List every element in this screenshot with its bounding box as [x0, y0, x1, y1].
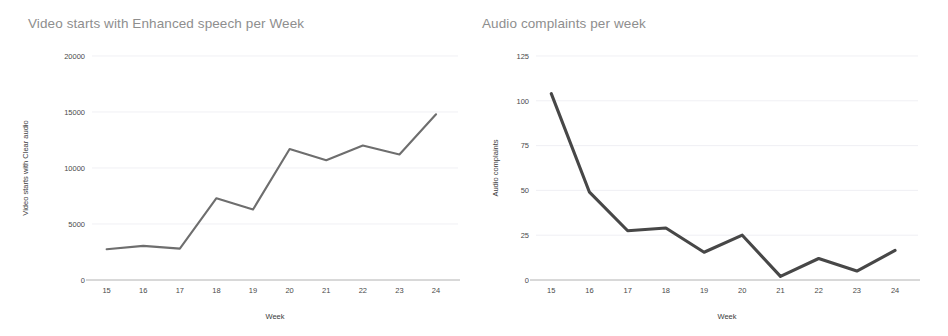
plot-area-audio-complaints: 025507510012515161718192021222324WeekAud… — [474, 40, 948, 336]
x-axis-tick-label: 21 — [322, 286, 330, 295]
y-axis-tick-label: 100 — [516, 97, 529, 106]
y-axis-tick-label: 0 — [81, 276, 85, 285]
chart-panel-audio-complaints: Audio complaints per week 02550751001251… — [474, 0, 948, 336]
y-axis-tick-label: 0 — [525, 276, 529, 285]
x-axis-tick-label: 18 — [212, 286, 220, 295]
y-axis-tick-label: 20000 — [64, 52, 85, 61]
x-axis-tick-label: 15 — [547, 286, 555, 295]
x-axis-tick-label: 20 — [285, 286, 293, 295]
charts-board: Video starts with Enhanced speech per We… — [0, 0, 948, 336]
y-axis-tick-label: 15000 — [64, 108, 85, 117]
x-axis-tick-label: 18 — [662, 286, 670, 295]
plot-area-video-starts: 0500010000150002000015161718192021222324… — [0, 40, 474, 336]
chart-panel-video-starts: Video starts with Enhanced speech per We… — [0, 0, 474, 336]
data-series-line — [107, 114, 436, 249]
y-axis-tick-label: 25 — [521, 231, 529, 240]
x-axis-tick-label: 17 — [624, 286, 632, 295]
x-axis-tick-label: 20 — [738, 286, 746, 295]
data-series-line — [551, 94, 895, 277]
y-axis-title: Audio complaints — [491, 139, 500, 196]
x-axis-title: Week — [265, 312, 284, 321]
x-axis-tick-label: 19 — [700, 286, 708, 295]
x-axis-title: Week — [717, 312, 736, 321]
x-axis-tick-label: 16 — [585, 286, 593, 295]
y-axis-tick-label: 10000 — [64, 164, 85, 173]
x-axis-tick-label: 15 — [102, 286, 110, 295]
x-axis-tick-label: 23 — [395, 286, 403, 295]
chart-title-video-starts: Video starts with Enhanced speech per We… — [28, 16, 304, 31]
x-axis-tick-label: 23 — [853, 286, 861, 295]
x-axis-tick-label: 17 — [176, 286, 184, 295]
x-axis-tick-label: 24 — [891, 286, 899, 295]
x-axis-tick-label: 22 — [815, 286, 823, 295]
x-axis-tick-label: 24 — [432, 286, 440, 295]
line-chart-audio-complaints: 025507510012515161718192021222324WeekAud… — [474, 40, 948, 336]
y-axis-tick-label: 75 — [521, 141, 529, 150]
x-axis-tick-label: 19 — [249, 286, 257, 295]
x-axis-tick-label: 22 — [359, 286, 367, 295]
x-axis-tick-label: 16 — [139, 286, 147, 295]
y-axis-title: Video starts with Clear audio — [21, 120, 30, 215]
line-chart-video-starts: 0500010000150002000015161718192021222324… — [0, 40, 474, 336]
y-axis-tick-label: 125 — [516, 52, 529, 61]
y-axis-tick-label: 50 — [521, 186, 529, 195]
x-axis-tick-label: 21 — [776, 286, 784, 295]
chart-title-audio-complaints: Audio complaints per week — [482, 16, 646, 31]
y-axis-tick-label: 5000 — [68, 220, 85, 229]
